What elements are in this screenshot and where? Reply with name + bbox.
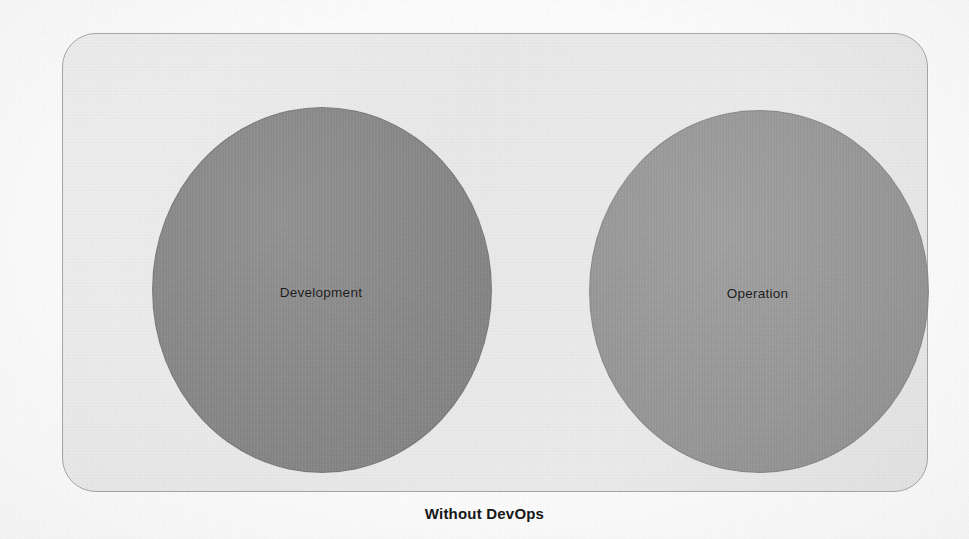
development-circle-label: Development xyxy=(280,285,362,300)
diagram-panel: Development Operation xyxy=(62,33,928,492)
figure-caption: Without DevOps xyxy=(0,505,969,522)
development-circle: Development xyxy=(152,107,492,473)
figure-canvas: UOIJN S q n UL uonnjos s,Ou2O no uouuoo … xyxy=(0,0,969,539)
operation-circle: Operation xyxy=(589,110,929,473)
operation-circle-label: Operation xyxy=(727,286,789,301)
